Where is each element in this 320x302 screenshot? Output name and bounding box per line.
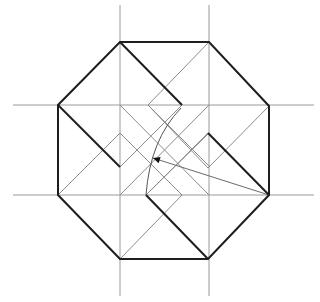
bold-arm-line <box>146 195 208 259</box>
octagon-diagram <box>0 0 320 302</box>
bold-arm-line <box>120 42 182 105</box>
construction-line <box>120 133 182 259</box>
construction-line <box>148 42 209 166</box>
bold-arm-line <box>58 105 120 167</box>
